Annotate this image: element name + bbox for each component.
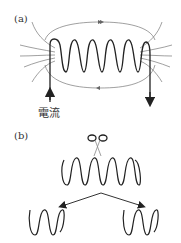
solenoid-coil xyxy=(50,39,150,102)
spring-left-half xyxy=(29,210,64,235)
magnetic-field-lines xyxy=(20,22,172,88)
panel-a-label: (a) xyxy=(14,13,28,24)
diagram-canvas xyxy=(0,0,181,243)
panel-b-label: (b) xyxy=(14,130,28,141)
current-label: 電流 xyxy=(38,104,60,120)
spring-full xyxy=(62,158,141,185)
split-arrows xyxy=(62,193,142,206)
spring-right-half xyxy=(123,210,158,235)
scissors-icon xyxy=(88,135,107,156)
